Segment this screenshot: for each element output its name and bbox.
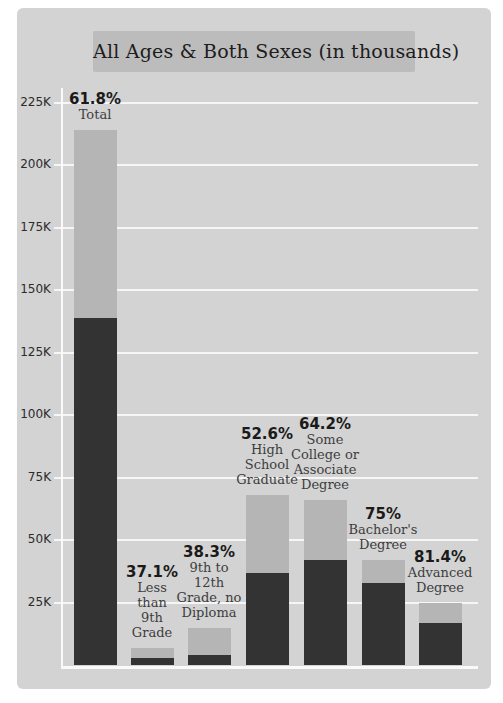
bar-dark-segment-bachelor-s-degree — [362, 583, 405, 666]
y-axis-tick-150k: 150K — [11, 282, 51, 296]
gridline-125k — [54, 352, 478, 354]
bar-label-bachelor-s-degree: 75%Bachelor'sDegree — [328, 506, 438, 552]
y-axis-tick-50k: 50K — [11, 532, 51, 546]
plot-area: 225K200K175K150K125K100K75K50K25K61.8%To… — [17, 8, 491, 689]
gridline-100k — [54, 414, 478, 416]
category-label-line-some-college-or-associate-degree: Associate — [270, 462, 380, 477]
bar-dark-segment-some-college-or-associate-degree — [304, 560, 347, 665]
category-label-line-bachelor-s-degree: Bachelor's — [328, 522, 438, 537]
bar-dark-segment-9th-to-12th-grade-no-diploma — [188, 655, 231, 665]
y-axis-line — [61, 88, 63, 669]
bar-label-advanced-degree: 81.4%AdvancedDegree — [385, 549, 495, 595]
gridline-200k — [54, 164, 478, 166]
gridline-150k — [54, 289, 478, 291]
y-axis-tick-25k: 25K — [11, 595, 51, 609]
gridline-175k — [54, 227, 478, 229]
percent-label-some-college-or-associate-degree: 64.2% — [270, 416, 380, 432]
bar-less-than-9th-grade — [131, 648, 174, 666]
bar-high-school-graduate — [246, 495, 289, 665]
percent-label-advanced-degree: 81.4% — [385, 549, 495, 565]
percent-label-bachelor-s-degree: 75% — [328, 506, 438, 522]
bar-label-total: 61.8%Total — [40, 91, 150, 122]
category-label-line-total: Total — [40, 107, 150, 122]
y-axis-tick-175k: 175K — [11, 220, 51, 234]
y-axis-tick-100k: 100K — [11, 407, 51, 421]
bar-9th-to-12th-grade-no-diploma — [188, 628, 231, 666]
category-label-line-advanced-degree: Degree — [385, 580, 495, 595]
bar-dark-segment-advanced-degree — [419, 623, 462, 666]
category-label-line-some-college-or-associate-degree: Some — [270, 432, 380, 447]
category-label-line-some-college-or-associate-degree: College or — [270, 447, 380, 462]
category-label-line-some-college-or-associate-degree: Degree — [270, 477, 380, 492]
chart-card: All Ages & Both Sexes (in thousands) 225… — [17, 8, 491, 689]
percent-label-total: 61.8% — [40, 91, 150, 107]
category-label-line-advanced-degree: Advanced — [385, 565, 495, 580]
y-axis-tick-125k: 125K — [11, 345, 51, 359]
bar-advanced-degree — [419, 603, 462, 666]
y-axis-tick-75k: 75K — [11, 470, 51, 484]
bar-dark-segment-less-than-9th-grade — [131, 658, 174, 666]
bar-label-some-college-or-associate-degree: 64.2%SomeCollege orAssociateDegree — [270, 416, 380, 492]
x-axis-baseline — [61, 666, 478, 669]
y-axis-tick-200k: 200K — [11, 157, 51, 171]
bar-dark-segment-high-school-graduate — [246, 573, 289, 666]
page: All Ages & Both Sexes (in thousands) 225… — [0, 0, 503, 703]
